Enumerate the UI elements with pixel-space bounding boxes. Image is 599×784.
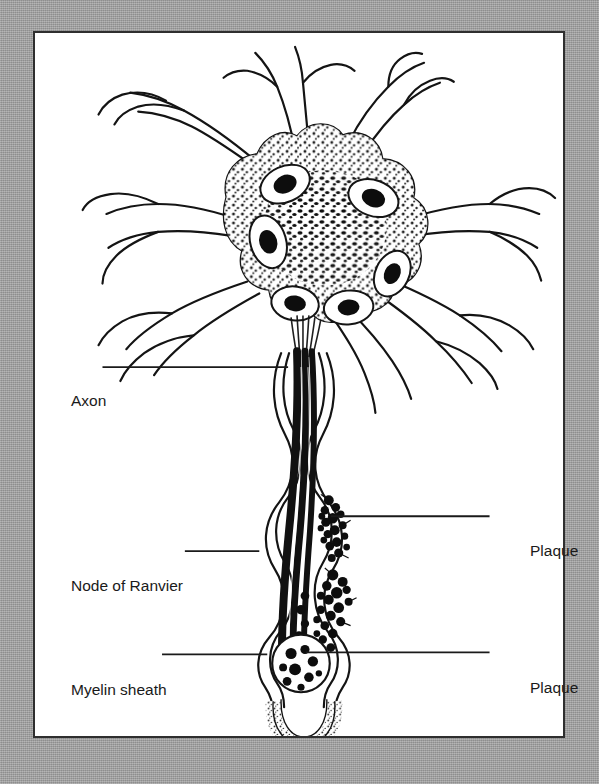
label-myelin-sheath: Myelin sheath [71,682,167,698]
soma [219,118,442,332]
label-plaque-upper: Plaque [530,543,578,559]
plaque-upper [318,494,351,562]
label-axon: Axon [71,393,106,409]
page-title-fragment [0,0,599,9]
figure-panel: Axon Node of Ranvier Myelin sheath Plaqu… [33,31,565,738]
page-canvas: Axon Node of Ranvier Myelin sheath Plaqu… [0,0,599,784]
axon-terminal-bulb [272,635,335,736]
label-plaque-lower: Plaque [530,680,578,696]
neuron-illustration [35,33,563,736]
label-node-of-ranvier: Node of Ranvier [71,578,183,594]
